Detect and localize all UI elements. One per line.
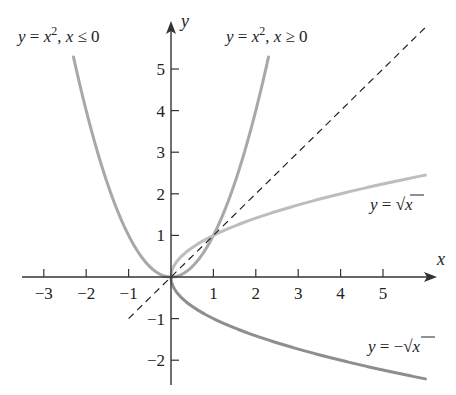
x-tick-label: −2 (77, 284, 95, 303)
y-tick-label: −2 (147, 351, 165, 370)
x-tick-label: 1 (209, 284, 218, 303)
ticks-layer: −3−2−11234554321−1−2 (35, 60, 387, 370)
plot-area: −3−2−11234554321−1−2 x y y = x2, x ≤ 0 y… (0, 0, 456, 395)
label-sqrt: y = √x (368, 195, 413, 214)
y-axis-label: y (179, 11, 189, 31)
curve-identity (129, 27, 426, 318)
label-parabola-left: y = x2, x ≤ 0 (16, 24, 100, 46)
y-tick-label: 5 (157, 60, 166, 79)
y-tick-label: 2 (157, 185, 166, 204)
x-tick-label: −3 (35, 284, 53, 303)
y-tick-label: −1 (147, 310, 165, 329)
label-neg-sqrt: y = −√x (366, 337, 421, 356)
x-axis-label: x (436, 249, 445, 269)
y-tick-label: 1 (157, 226, 166, 245)
y-tick-label: 3 (157, 143, 166, 162)
x-tick-label: 5 (379, 284, 388, 303)
curve-parabola-right (171, 57, 269, 277)
x-tick-label: 3 (294, 284, 303, 303)
x-tick-label: 2 (252, 284, 261, 303)
label-parabola-right: y = x2, x ≥ 0 (224, 24, 308, 46)
x-tick-label: −1 (120, 284, 138, 303)
y-tick-label: 4 (157, 102, 166, 121)
chart-figure: −3−2−11234554321−1−2 x y y = x2, x ≤ 0 y… (0, 0, 456, 395)
curve-sqrt (171, 175, 425, 277)
x-tick-label: 4 (336, 284, 345, 303)
